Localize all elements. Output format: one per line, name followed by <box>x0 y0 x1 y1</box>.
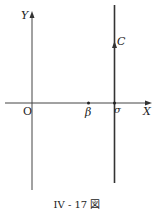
x-axis-label: X <box>143 106 151 117</box>
y-axis-label: Y <box>21 10 28 21</box>
figure-caption: IV - 17 図 <box>0 196 154 211</box>
beta-point <box>87 102 90 105</box>
contour-label: C <box>117 36 125 47</box>
origin-label: O <box>23 106 32 117</box>
sigma-label: σ <box>114 105 121 115</box>
beta-label: β <box>85 107 91 118</box>
y-axis-arrow-icon <box>30 11 35 18</box>
